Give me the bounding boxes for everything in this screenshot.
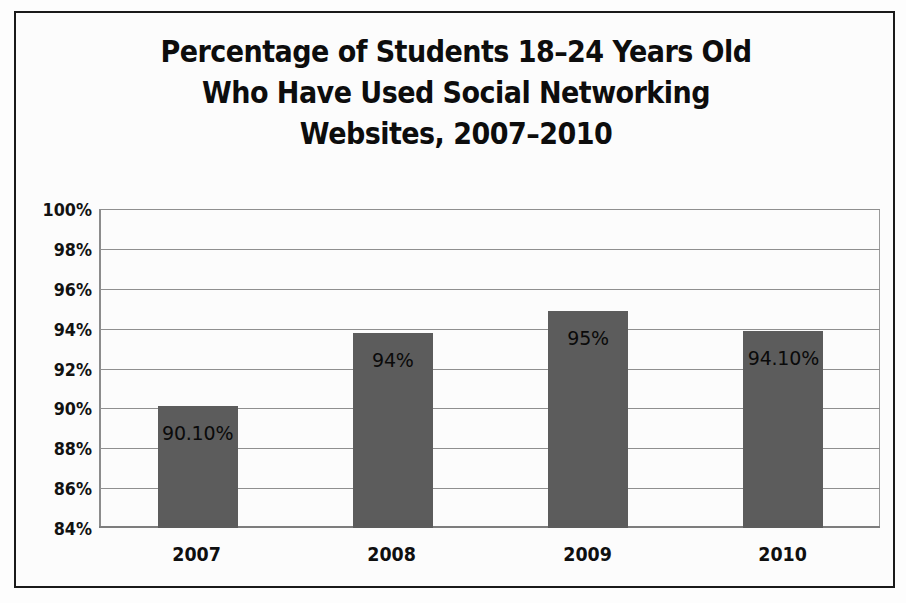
y-tick-label: 84% bbox=[22, 519, 92, 539]
scan-page-background: Percentage of Students 18–24 Years Old W… bbox=[0, 0, 906, 603]
y-axis-tick-labels: 100%98%96%94%92%90%88%86%84% bbox=[12, 209, 92, 528]
x-tick-label-2008: 2008 bbox=[302, 543, 482, 565]
y-tick-label: 88% bbox=[22, 439, 92, 459]
x-axis-tick-labels: 2007200820092010 bbox=[99, 543, 880, 577]
y-tick-label: 94% bbox=[22, 320, 92, 340]
bar-value-label: 94% bbox=[353, 349, 433, 371]
gridline-100 bbox=[99, 209, 880, 210]
y-tick-label: 98% bbox=[22, 240, 92, 260]
y-tick-label: 96% bbox=[22, 280, 92, 300]
y-tick-label: 100% bbox=[22, 200, 92, 220]
y-tick-label: 90% bbox=[22, 399, 92, 419]
bar-value-label: 95% bbox=[548, 327, 628, 349]
bar-2009: 95% bbox=[548, 311, 628, 528]
bar-2007: 90.10% bbox=[158, 406, 238, 528]
chart-title: Percentage of Students 18–24 Years Old W… bbox=[114, 31, 798, 154]
x-tick-label-2009: 2009 bbox=[497, 543, 677, 565]
x-tick-label-2010: 2010 bbox=[693, 543, 873, 565]
y-tick-label: 92% bbox=[22, 360, 92, 380]
x-tick-label-2007: 2007 bbox=[107, 543, 287, 565]
plot-area: 90.10%94%95%94.10% bbox=[99, 209, 880, 528]
gridline-96 bbox=[99, 289, 880, 290]
bar-value-label: 94.10% bbox=[743, 347, 823, 369]
y-tick-label: 86% bbox=[22, 479, 92, 499]
bar-2008: 94% bbox=[353, 333, 433, 528]
bar-value-label: 90.10% bbox=[158, 422, 238, 444]
gridline-94 bbox=[99, 329, 880, 330]
bar-2010: 94.10% bbox=[743, 331, 823, 528]
gridline-98 bbox=[99, 249, 880, 250]
